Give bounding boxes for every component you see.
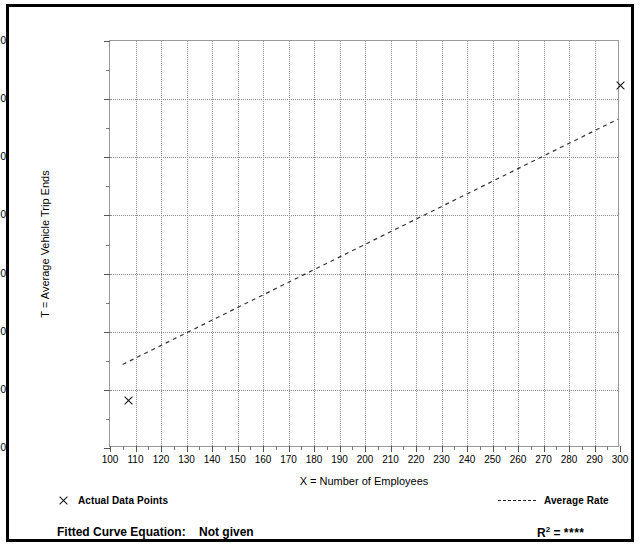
y-tick-label: 4,000 [0, 269, 6, 279]
legend: Actual Data Points Average Rate [9, 495, 631, 519]
chart-page: T = Average Vehicle Trip Ends 1,0002,000… [0, 0, 640, 548]
y-tick-label: 3,000 [0, 327, 6, 337]
x-tick-minor [276, 446, 277, 450]
average-rate-trendline [110, 41, 618, 446]
x-tick [110, 446, 111, 452]
footer-row: Fitted Curve Equation: Not given R2 = **… [9, 525, 631, 548]
x-tick-minor [301, 446, 302, 450]
y-axis-title: T = Average Vehicle Trip Ends [39, 170, 51, 317]
fitted-curve-equation: Fitted Curve Equation: Not given [57, 525, 254, 539]
x-tick-minor [148, 446, 149, 450]
x-tick-minor [429, 446, 430, 450]
x-tick-minor [225, 446, 226, 450]
x-tick-minor [174, 446, 175, 450]
x-tick-minor [327, 446, 328, 450]
x-tick [263, 446, 264, 452]
x-tick-minor [352, 446, 353, 450]
x-tick-minor [480, 446, 481, 450]
y-tick-label: 8,000 [0, 36, 6, 46]
x-tick [187, 446, 188, 452]
plot-area: 1,0002,0003,0004,0005,0006,0007,0008,000… [109, 40, 619, 447]
x-tick [569, 446, 570, 452]
r-squared-exponent: 2 [546, 525, 550, 534]
legend-label-average-rate: Average Rate [544, 495, 609, 506]
r-squared-value: **** [564, 526, 585, 540]
x-tick-label: 300 [600, 455, 640, 465]
x-tick [544, 446, 545, 452]
x-tick-minor [454, 446, 455, 450]
x-tick-minor [199, 446, 200, 450]
legend-item-actual-points: Actual Data Points [57, 495, 168, 506]
legend-label-actual-points: Actual Data Points [78, 495, 168, 506]
y-tick-label: 1,000 [0, 443, 6, 453]
x-tick-minor [582, 446, 583, 450]
x-tick [212, 446, 213, 452]
dashed-line-icon [498, 500, 536, 501]
x-tick [289, 446, 290, 452]
r-squared-equals: = [553, 526, 560, 540]
y-tick-label: 5,000 [0, 210, 6, 220]
x-tick [518, 446, 519, 452]
x-tick [161, 446, 162, 452]
fitted-curve-equation-value: Not given [199, 525, 254, 539]
x-tick [314, 446, 315, 452]
x-tick [238, 446, 239, 452]
x-tick-minor [378, 446, 379, 450]
y-tick-label: 6,000 [0, 152, 6, 162]
legend-item-average-rate: Average Rate [498, 495, 609, 506]
y-tick-label: 2,000 [0, 385, 6, 395]
chart-frame: T = Average Vehicle Trip Ends 1,0002,000… [6, 4, 634, 542]
x-tick [340, 446, 341, 452]
x-marker-icon [57, 495, 68, 506]
x-axis-title: X = Number of Employees [109, 475, 619, 487]
x-tick [365, 446, 366, 452]
x-tick-minor [505, 446, 506, 450]
r-squared: R2 = **** [537, 525, 585, 540]
r-squared-label: R [537, 526, 546, 540]
x-tick [416, 446, 417, 452]
x-tick [620, 446, 621, 452]
x-tick-minor [250, 446, 251, 450]
x-tick-minor [403, 446, 404, 450]
x-tick-minor [556, 446, 557, 450]
fitted-curve-equation-label: Fitted Curve Equation: [57, 525, 186, 539]
x-tick [391, 446, 392, 452]
x-tick [442, 446, 443, 452]
x-tick-minor [531, 446, 532, 450]
x-tick [493, 446, 494, 452]
x-tick-minor [123, 446, 124, 450]
y-tick-label: 7,000 [0, 94, 6, 104]
x-tick-minor [607, 446, 608, 450]
x-tick [136, 446, 137, 452]
x-tick [595, 446, 596, 452]
x-tick [467, 446, 468, 452]
